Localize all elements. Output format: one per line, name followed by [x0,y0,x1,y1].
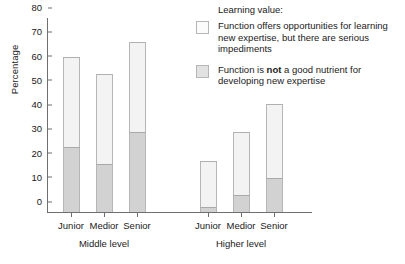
bar-segment-offers-opportunities [96,74,113,164]
bar-segment-offers-opportunities [233,132,250,195]
y-tick-50: 50 [31,74,47,85]
group-label-higher-level: Higher level [216,238,266,249]
legend-title: Learning value: [218,4,403,15]
y-tick-80: 80 [31,2,47,13]
x-label-middle-level-junior: Junior [58,220,84,231]
bar-higher-level-senior[interactable] [266,104,283,212]
bar-segment-not-good-nutrient [96,164,113,213]
y-tick-mark [48,31,52,32]
x-tick [274,213,275,217]
x-label-higher-level-senior: Senior [260,220,287,231]
bar-higher-level-medior[interactable] [233,132,250,212]
bar-segment-offers-opportunities [266,104,283,178]
legend-label-dark-emphasis: not [267,64,282,75]
y-tick-mark [48,7,52,8]
y-tick-70: 70 [31,26,47,37]
legend-swatch-dark [196,65,209,78]
y-tick-mark [48,201,52,202]
y-tick-60: 60 [31,50,47,61]
bar-middle-level-medior[interactable] [96,74,113,212]
legend-swatch-light [196,21,209,34]
x-label-higher-level-medior: Medior [226,220,255,231]
y-tick-mark [48,104,52,105]
bar-segment-not-good-nutrient [63,147,80,212]
y-tick-mark [48,56,52,57]
bar-middle-level-junior[interactable] [63,57,80,212]
legend-item-light: Function offers opportunities for learni… [218,20,403,54]
y-tick-mark [48,80,52,81]
bar-middle-level-senior[interactable] [129,42,146,212]
bar-segment-not-good-nutrient [233,195,250,212]
bar-segment-offers-opportunities [129,42,146,132]
group-label-middle-level: Middle level [79,238,129,249]
y-tick-10: 10 [31,171,47,182]
y-axis-line [47,18,48,213]
y-tick-0: 0 [37,196,47,207]
x-axis-line [47,212,312,213]
x-tick [137,213,138,217]
bar-segment-offers-opportunities [200,161,217,207]
legend-label-light: Function offers opportunities for learni… [218,20,388,54]
y-tick-30: 30 [31,123,47,134]
x-tick [104,213,105,217]
x-label-middle-level-medior: Medior [89,220,118,231]
bar-segment-offers-opportunities [63,57,80,147]
legend-item-dark: Function is not a good nutrient for deve… [218,64,403,87]
x-tick [241,213,242,217]
x-label-middle-level-senior: Senior [123,220,150,231]
y-tick-mark [48,177,52,178]
x-label-higher-level-junior: Junior [195,220,221,231]
chart-legend: Learning value: Function offers opportun… [196,4,403,95]
stacked-bar-chart: Percentage 01020304050607080 JuniorMedio… [0,0,405,264]
legend-label-dark-before: Function is [218,64,267,75]
y-tick-mark [48,128,52,129]
y-axis-title: Percentage [9,28,20,112]
x-tick [71,213,72,217]
bar-segment-not-good-nutrient [266,178,283,212]
bar-higher-level-junior[interactable] [200,161,217,212]
x-tick [208,213,209,217]
y-tick-mark [48,153,52,154]
bar-segment-not-good-nutrient [129,132,146,212]
y-tick-40: 40 [31,99,47,110]
bar-segment-not-good-nutrient [200,207,217,212]
y-tick-20: 20 [31,147,47,158]
